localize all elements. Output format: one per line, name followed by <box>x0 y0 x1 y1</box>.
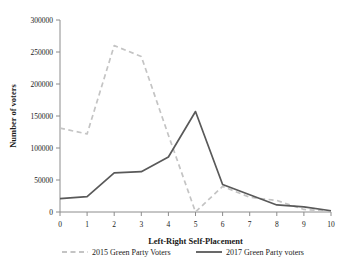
x-tick-label: 5 <box>194 220 198 229</box>
x-tick-label: 6 <box>221 220 225 229</box>
x-axis-title: Left-Right Self-Placement <box>148 236 243 246</box>
y-tick-label: 0 <box>49 208 53 217</box>
x-tick-group: 012345678910 <box>58 212 335 229</box>
x-tick-label: 2 <box>112 220 116 229</box>
series-group <box>60 46 331 212</box>
y-tick-label: 100000 <box>31 144 54 153</box>
x-tick-label: 8 <box>275 220 279 229</box>
y-axis-group: 050000100000150000200000250000300000 <box>31 16 61 217</box>
y-axis-title: Number of voters <box>8 84 18 148</box>
x-tick-label: 10 <box>327 220 335 229</box>
y-tick-group: 050000100000150000200000250000300000 <box>31 16 61 217</box>
x-tick-label: 0 <box>58 220 62 229</box>
x-tick-label: 9 <box>302 220 306 229</box>
legend-label: 2017 Green Party voters <box>226 248 304 257</box>
series-line <box>60 46 331 212</box>
chart-container: 050000100000150000200000250000300000 012… <box>0 0 347 271</box>
y-tick-label: 50000 <box>34 176 53 185</box>
chart-legend: 2015 Green Party Voters2017 Green Party … <box>62 248 304 257</box>
legend-label: 2015 Green Party Voters <box>92 248 171 257</box>
y-tick-label: 250000 <box>31 48 54 57</box>
line-chart: 050000100000150000200000250000300000 012… <box>0 0 347 271</box>
series-line <box>60 112 331 211</box>
y-tick-label: 150000 <box>31 112 54 121</box>
x-axis-group: 012345678910 <box>58 212 335 229</box>
x-tick-label: 4 <box>167 220 171 229</box>
y-tick-label: 200000 <box>31 80 54 89</box>
x-tick-label: 1 <box>85 220 89 229</box>
y-tick-label: 300000 <box>31 16 54 25</box>
x-tick-label: 3 <box>139 220 143 229</box>
x-tick-label: 7 <box>248 220 252 229</box>
